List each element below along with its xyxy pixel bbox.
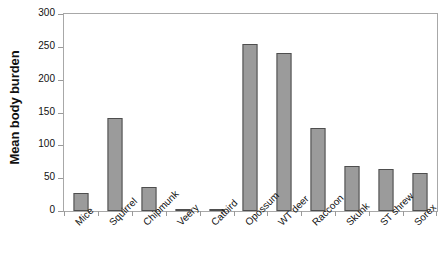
x-axis-label: Skunk	[335, 218, 369, 276]
y-axis-tick-label: 200	[38, 73, 55, 84]
bar-slot	[369, 14, 403, 211]
x-axis-label: ST shrew	[369, 218, 403, 276]
x-axis-tick-mark	[200, 211, 201, 216]
bar-slot	[335, 14, 369, 211]
x-axis-label: Raccoon	[301, 218, 335, 276]
x-axis-label: Chipmunk	[132, 218, 166, 276]
y-axis-tick-mark	[58, 47, 63, 48]
x-axis-tick-mark	[335, 211, 336, 216]
bar-slot	[132, 14, 166, 211]
bar-slot	[234, 14, 268, 211]
x-axis-label: Catbird	[200, 218, 234, 276]
x-axis-tick-mark	[267, 211, 268, 216]
x-axis-tick-mark	[234, 211, 235, 216]
x-axis-tick-mark	[403, 211, 404, 216]
x-axis-label: WT deer	[267, 218, 301, 276]
x-axis-label: Veery	[166, 218, 200, 276]
y-axis-tick-mark	[58, 113, 63, 114]
y-axis-tick-mark	[58, 178, 63, 179]
y-axis-tick-mark	[58, 80, 63, 81]
x-axis-label: Sorex	[403, 218, 437, 276]
x-axis-tick-mark	[301, 211, 302, 216]
x-axis-labels: MiceSquirrelChipmunkVeeryCatbirdOpossumW…	[64, 218, 437, 276]
x-axis-tick-mark	[166, 211, 167, 216]
x-axis-label: Squirrel	[98, 218, 132, 276]
x-axis-label: Mice	[64, 218, 98, 276]
x-axis-tick-mark	[369, 211, 370, 216]
y-axis-tick-label: 300	[38, 7, 55, 18]
bar-slot	[166, 14, 200, 211]
y-axis-tick-mark	[58, 14, 63, 15]
bar-wt-deer[interactable]	[277, 53, 292, 211]
y-axis-tick-mark	[58, 211, 63, 212]
bar-slot	[64, 14, 98, 211]
bar-slot	[301, 14, 335, 211]
y-axis-tick-label: 50	[44, 171, 55, 182]
bar-slot	[403, 14, 437, 211]
y-axis-tick-label: 100	[38, 138, 55, 149]
y-axis: 050100150200250300	[0, 0, 63, 226]
x-axis-label: Opossum	[234, 218, 268, 276]
x-axis-tick-mark	[436, 211, 437, 216]
bar-slot	[267, 14, 301, 211]
y-axis-tick-label: 150	[38, 106, 55, 117]
x-axis-tick-mark	[98, 211, 99, 216]
bar-raccoon[interactable]	[311, 128, 326, 211]
x-axis-tick-mark	[64, 211, 65, 216]
y-axis-tick-mark	[58, 145, 63, 146]
x-axis-tick-mark	[132, 211, 133, 216]
bar-slot	[200, 14, 234, 211]
bar-opossum[interactable]	[243, 44, 258, 211]
bar-chart: Mean body burden 050100150200250300 Mice…	[0, 0, 448, 276]
bar-slot	[98, 14, 132, 211]
bars-layer	[64, 14, 437, 211]
y-axis-tick-label: 250	[38, 40, 55, 51]
bar-skunk[interactable]	[345, 166, 360, 211]
bar-squirrel[interactable]	[107, 118, 122, 211]
y-axis-tick-label: 0	[49, 204, 55, 215]
